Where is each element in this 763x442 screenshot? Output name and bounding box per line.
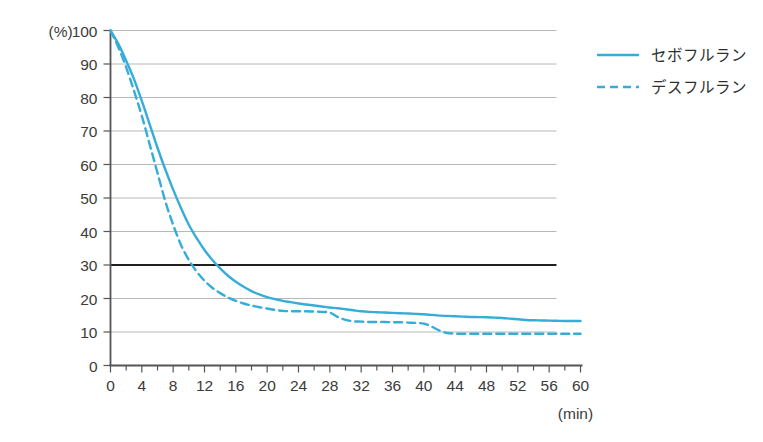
x-tick-label-4: 4 [138,377,147,394]
legend-label-2: デスフルラン [651,78,747,96]
chart-figure: 04812162024283236404448525660 0102030405… [0,0,763,442]
y-tick-label-90: 90 [80,56,98,73]
y-tick-label-0: 0 [89,358,98,375]
y-tick-labels: 0102030405060708090100 [72,23,98,375]
x-tick-label-0: 0 [106,377,115,394]
y-tick-marks [104,31,111,366]
x-tick-labels: 04812162024283236404448525660 [106,377,589,394]
x-tick-label-36: 36 [384,377,401,394]
x-tick-label-60: 60 [572,377,590,394]
chart-canvas: 04812162024283236404448525660 0102030405… [0,0,763,442]
chart-legend: セボフルランデスフルラン [597,47,747,96]
x-tick-label-8: 8 [169,377,178,394]
x-tick-label-40: 40 [415,377,433,394]
x-tick-label-24: 24 [290,377,308,394]
x-tick-label-52: 52 [509,377,526,394]
series-line-1 [111,31,581,321]
x-tick-label-28: 28 [321,377,338,394]
y-tick-label-40: 40 [80,224,98,241]
x-tick-label-12: 12 [196,377,213,394]
y-tick-label-20: 20 [80,291,98,308]
x-tick-label-20: 20 [259,377,277,394]
y-tick-label-10: 10 [80,324,98,341]
y-tick-label-60: 60 [80,157,98,174]
x-tick-marks [111,366,581,373]
legend-label-1: セボフルラン [651,47,747,64]
x-axis-unit-label: (min) [558,405,593,422]
y-tick-label-70: 70 [80,123,98,140]
x-tick-label-56: 56 [541,377,558,394]
data-series-group [111,31,581,334]
y-tick-label-50: 50 [80,190,98,207]
gridlines-group [111,31,557,333]
x-tick-label-48: 48 [478,377,495,394]
y-tick-label-100: 100 [72,23,98,40]
x-tick-label-32: 32 [353,377,370,394]
y-tick-label-30: 30 [80,257,98,274]
y-tick-label-80: 80 [80,90,98,107]
x-tick-label-16: 16 [227,377,244,394]
x-tick-label-44: 44 [447,377,465,394]
y-axis-unit-label: (%) [49,23,73,40]
series-line-2 [111,31,581,334]
